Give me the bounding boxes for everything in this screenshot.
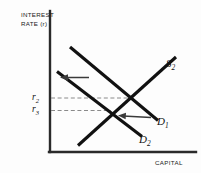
shift-arrow-lower [118,113,151,119]
curve-label-s2: S2 [166,58,175,72]
y-tick-r3-subscript: 3 [36,109,39,116]
curve-label-s2-subscript: 2 [172,63,176,72]
y-tick-label-r2: r2 [32,93,39,104]
curve-label-d2-subscript: 2 [147,139,151,148]
curve-label-d1-base: D [157,115,165,127]
capital-market-chart: INTEREST RATE (r) CAPITAL r2 r3 S2 D1 D2 [0,0,201,173]
x-axis-title: CAPITAL [155,160,183,166]
curve-label-d1: D1 [157,116,169,130]
y-tick-label-r3: r3 [32,105,39,116]
curve-label-d2-base: D [139,133,147,145]
supply-curve-s2 [78,57,176,146]
y-axis-title-line-2: RATE (r) [21,21,47,27]
y-tick-r2-subscript: 2 [36,97,39,104]
curve-label-d2: D2 [139,134,151,148]
y-axis-title-line-1: INTEREST [21,12,47,18]
y-axis-title: INTEREST RATE (r) [21,12,47,27]
curve-label-d1-subscript: 1 [165,121,169,130]
